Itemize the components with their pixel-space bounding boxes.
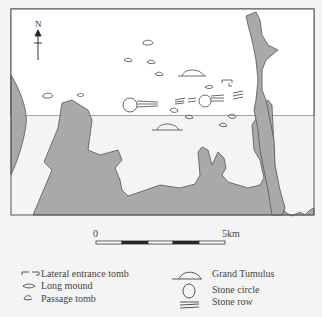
stone-circle-icon [183, 284, 195, 298]
passage-tomb-icon [24, 296, 32, 300]
lateral-entrance-tomb-icon [22, 272, 39, 275]
grand-tumulus-icon [172, 272, 202, 279]
legend-label-passage-tomb: Passage tomb [41, 293, 96, 304]
long-mound-icon [23, 284, 35, 288]
legend-label-lateral-entrance-tomb: Lateral entrance tomb [41, 268, 129, 279]
legend-label-long-mound: Long mound [41, 280, 92, 291]
scale-end-label: 5km [222, 228, 240, 239]
legend-label-stone-row: Stone row [212, 296, 253, 307]
stone-row-icon [180, 302, 199, 308]
svg-text:N: N [35, 19, 42, 29]
legend-label-stone-circle: Stone circle [212, 284, 259, 295]
scale-start-label: 0 [93, 228, 98, 239]
scale-bar [96, 241, 225, 244]
legend-label-grand-tumulus: Grand Tumulus [212, 268, 275, 279]
